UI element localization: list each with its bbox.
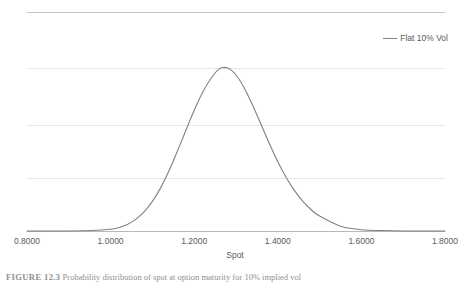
x-tick-label: 1.6000 [348,236,374,246]
x-tick-label: 0.8000 [14,236,40,246]
legend-label: Flat 10% Vol [400,33,448,43]
figure-container: Probability Distribution Function 0.8000… [0,0,470,282]
pdf-curve [27,12,445,231]
figure-caption-label: FIGURE 12.3 [6,272,60,282]
figure-caption-text: Probability distribution of spot at opti… [63,272,301,282]
plot-region [27,12,445,231]
x-axis-ticks: 0.8000 1.0000 1.2000 1.4000 1.6000 1.800… [27,236,445,248]
figure-caption: FIGURE 12.3 Probability distribution of … [6,272,446,282]
x-axis-line [27,231,445,232]
x-tick-label: 1.8000 [432,236,458,246]
x-tick-label: 1.0000 [98,236,124,246]
chart-plot-area: Probability Distribution Function 0.8000… [0,0,470,258]
x-tick-label: 1.2000 [181,236,207,246]
x-tick-label: 1.4000 [265,236,291,246]
chart-legend: Flat 10% Vol [383,33,448,43]
x-axis-title: Spot [0,250,470,260]
legend-line-swatch [383,38,397,39]
